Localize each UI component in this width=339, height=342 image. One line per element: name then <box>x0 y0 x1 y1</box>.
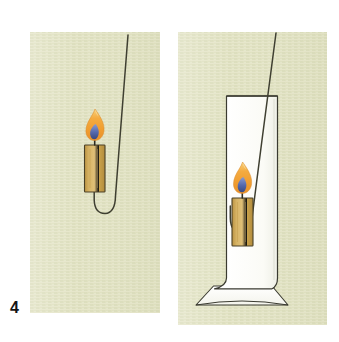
panel-in-cylinder <box>178 32 327 325</box>
candle-body <box>232 198 253 246</box>
figure-root: 4 <box>0 0 339 342</box>
figure-svg <box>0 0 339 342</box>
candle-body <box>85 145 106 192</box>
figure-number-label: 4 <box>10 300 19 316</box>
panel-open-air <box>30 32 160 313</box>
